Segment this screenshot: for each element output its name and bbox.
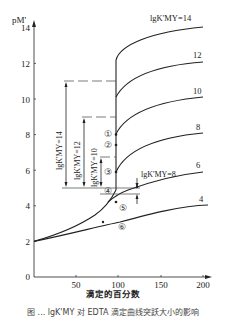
curve-10 (116, 97, 203, 134)
curve-label-12: 12 (193, 50, 202, 60)
range-label-8: lgK'MY=8 (141, 170, 176, 179)
point-label-1: ① (104, 129, 112, 139)
y-tick-labels: 0 2 4 6 8 10 12 14 (21, 23, 31, 282)
y-tick: 10 (21, 95, 31, 105)
y-tick: 4 (26, 201, 31, 211)
curve-label-8: 8 (196, 122, 200, 132)
y-axis-label: pM' (12, 15, 27, 25)
figure-caption: 图 ... lgK'MY 对 EDTA 滴定曲线突跃大小的影响 (0, 306, 226, 317)
curve-14 (116, 27, 203, 60)
x-axis-arrow-icon (205, 275, 212, 279)
range-label-10: lgK'MY=10 (90, 148, 99, 187)
y-axis-arrow-icon (32, 20, 36, 27)
curve-label-10: 10 (193, 86, 202, 96)
curve-label-6: 6 (196, 160, 200, 170)
titration-chart: 0 2 4 6 8 10 12 14 pM' 50 100 150 200 lg… (0, 0, 226, 318)
y-tick: 8 (26, 130, 31, 140)
curve-pre-equivalence (34, 190, 116, 241)
point-label-3: ③ (104, 167, 112, 177)
range-label-12: lgK'MY=12 (73, 141, 82, 180)
y-tick: 2 (26, 237, 31, 247)
curve-label-14: lgK'MY=14 (150, 13, 192, 23)
y-tick: 0 (26, 272, 31, 282)
range-label-14: lgK'MY=14 (55, 131, 64, 170)
x-axis-label: 滴定的百分数 (0, 287, 226, 299)
y-tick: 12 (21, 59, 30, 69)
range-labels: lgK'MY=14 lgK'MY=12 lgK'MY=10 lgK'MY=8 (55, 131, 176, 187)
arrow-heads (65, 82, 139, 199)
curve-label-4: 4 (199, 194, 204, 204)
curve-8 (116, 133, 203, 172)
point-label-6: ⑥ (118, 222, 126, 232)
y-tick: 6 (26, 166, 31, 176)
point-label-2: ② (104, 140, 112, 150)
point-label-5: ⑤ (119, 203, 127, 213)
curve-12 (116, 62, 203, 97)
point-label-4: ④ (104, 186, 112, 196)
